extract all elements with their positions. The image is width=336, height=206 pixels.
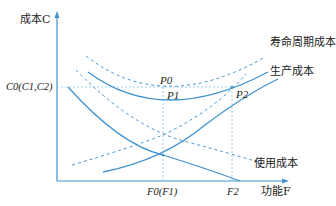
x-tick-f2: F2 (227, 187, 239, 198)
point-p0-label: P0 (160, 75, 172, 86)
life-cycle-cost-label: 寿命周期成本 (270, 37, 336, 48)
usage-cost-solid-curve (68, 87, 240, 181)
intersection-point (162, 154, 165, 157)
x-axis-arrow-icon (282, 179, 289, 184)
y-tick-c0: C0(C1,C2) (6, 82, 52, 93)
production-cost-dashed-curve (72, 74, 246, 165)
x-axis-label: 功能F (261, 186, 291, 197)
y-axis-label: 成本C (20, 14, 50, 25)
x-tick-f0: F0(F1) (147, 187, 177, 198)
production-cost-label: 生产成本 (270, 66, 314, 77)
life-cycle-cost-dashed-curve (86, 56, 265, 86)
point-p1-label: P1 (167, 90, 179, 101)
y-axis-arrow-icon (55, 11, 60, 18)
point-p2-label: P2 (236, 89, 248, 100)
usage-cost-label: 使用成本 (254, 158, 298, 169)
p2-point (231, 86, 234, 89)
